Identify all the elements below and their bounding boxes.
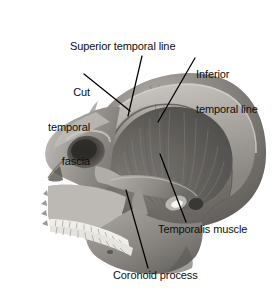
- label-cut-temporal-fascia-row3: fascia: [18, 156, 90, 168]
- label-inferior-temporal-line-row2: temporal line: [196, 104, 258, 116]
- leader-superior-temporal-left: [66, 53, 93, 56]
- bottom-divider: [14, 296, 278, 300]
- label-inferior-temporal-line-row1: Inferior: [196, 69, 258, 81]
- label-superior-temporal-line: Superior temporal line: [70, 41, 175, 53]
- leader-cut-temporal-fascia: [84, 74, 130, 111]
- label-inferior-temporal-line: Inferior temporal line: [196, 46, 258, 127]
- label-temporalis-muscle: Temporalis muscle: [158, 224, 247, 236]
- label-cut-temporal-fascia-row2: temporal: [18, 122, 90, 134]
- label-coronoid-process: Coronoid process: [113, 270, 198, 282]
- label-cut-temporal-fascia: Cut temporal fascia: [18, 64, 90, 179]
- label-cut-temporal-fascia-row1: Cut: [18, 87, 90, 99]
